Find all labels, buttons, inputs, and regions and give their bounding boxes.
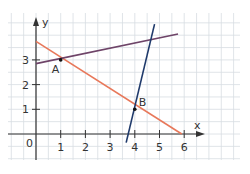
coordinate-plot: 123456123 AB x y 0	[0, 0, 250, 174]
x-axis-label: x	[194, 119, 201, 132]
purple-line	[36, 34, 178, 64]
y-axis-label: y	[42, 16, 49, 29]
axes	[8, 17, 205, 160]
point-label: A	[52, 63, 60, 76]
point-B	[133, 108, 137, 112]
origin-label: 0	[26, 137, 33, 150]
ticks: 123456123	[22, 54, 188, 154]
x-tick-label: 2	[82, 141, 89, 154]
x-tick-label: 3	[107, 141, 114, 154]
x-tick-label: 1	[57, 141, 64, 154]
grid	[8, 13, 240, 160]
y-tick-label: 1	[22, 103, 29, 116]
y-tick-label: 3	[22, 54, 29, 67]
y-axis-arrow-icon	[33, 17, 39, 26]
point-A	[59, 58, 63, 62]
x-tick-label: 6	[181, 141, 188, 154]
point-label: B	[139, 96, 147, 109]
x-tick-label: 4	[131, 141, 138, 154]
y-tick-label: 2	[22, 79, 29, 92]
x-tick-label: 5	[156, 141, 163, 154]
